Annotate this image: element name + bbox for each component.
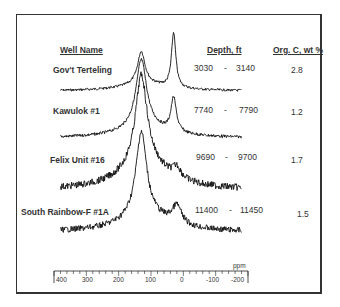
tick-label: -100 (206, 276, 219, 283)
ppm-axis: 400 300 200 100 0 -100 -200 ppm (54, 262, 248, 283)
tick-label: 100 (145, 276, 156, 283)
tick-label: 200 (113, 276, 124, 283)
tick-label: -200 (231, 276, 244, 283)
spectrum-line (61, 32, 242, 91)
spectra-plot: 400 300 200 100 0 -100 -200 ppm (0, 0, 340, 307)
tick-label: 400 (56, 276, 67, 283)
axis-unit: ppm (233, 262, 246, 270)
spectrum-line (61, 58, 242, 138)
tick-label: 300 (82, 276, 93, 283)
tick-label: 0 (180, 276, 184, 283)
nmr-spectra (61, 32, 242, 232)
